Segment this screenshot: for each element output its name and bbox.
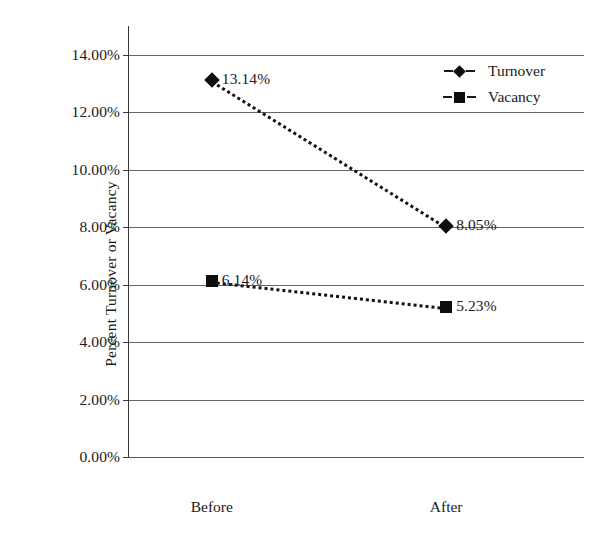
y-axis-tick-label: 2.00% [79, 391, 120, 409]
data-label-turnover-before: 13.14% [222, 70, 270, 88]
gridline [129, 55, 584, 56]
gridline [129, 227, 584, 228]
legend-dash-left-icon [444, 70, 453, 72]
square-marker-vacancy-before[interactable] [206, 275, 218, 287]
legend-dash-right-icon [466, 70, 475, 72]
y-axis-tick-label: 14.00% [72, 46, 120, 64]
legend-key-vacancy [436, 92, 482, 103]
x-axis-tick-label-before: Before [191, 498, 233, 516]
y-axis-tick-label: 4.00% [79, 333, 120, 351]
legend-label-turnover: Turnover [488, 62, 545, 80]
y-axis-tick-label: 10.00% [72, 161, 120, 179]
y-axis-tick-mark [123, 342, 129, 343]
y-axis-tick-mark [123, 285, 129, 286]
y-axis-tick-mark [123, 112, 129, 113]
square-marker-vacancy-after[interactable] [440, 301, 452, 313]
gridline [129, 342, 584, 343]
square-marker-icon [454, 92, 465, 103]
legend: Turnover Vacancy [436, 62, 545, 106]
diamond-marker-turnover-after[interactable] [438, 218, 454, 234]
gridline [129, 400, 584, 401]
y-axis-tick-mark [123, 55, 129, 56]
y-axis-tick-mark [123, 170, 129, 171]
y-axis-tick-mark [123, 227, 129, 228]
data-label-vacancy-before: 6.14% [222, 271, 263, 289]
y-axis-tick-mark [123, 400, 129, 401]
y-axis-tick-label: 8.00% [79, 218, 120, 236]
diamond-marker-icon [453, 65, 466, 78]
gridline [129, 457, 584, 458]
x-axis-tick-label-after: After [430, 498, 463, 516]
legend-dash-left-icon [443, 96, 452, 98]
y-axis-tick-label: 6.00% [79, 276, 120, 294]
legend-dash-right-icon [467, 96, 476, 98]
legend-item-vacancy[interactable]: Vacancy [436, 88, 545, 106]
data-label-turnover-after: 8.05% [456, 216, 497, 234]
gridline [129, 285, 584, 286]
gridline [129, 112, 584, 113]
legend-key-turnover [436, 67, 482, 76]
data-label-vacancy-after: 5.23% [456, 297, 497, 315]
plot-area: 0.00%2.00%4.00%6.00%8.00%10.00%12.00%14.… [129, 55, 584, 457]
y-axis-tick-label: 0.00% [79, 448, 120, 466]
y-axis-tick-label: 12.00% [72, 103, 120, 121]
line-chart: Percent Turnover or Vacancy 0.00%2.00%4.… [0, 0, 612, 548]
y-axis-tick-mark [123, 457, 129, 458]
series-line-turnover [210, 80, 446, 229]
legend-label-vacancy: Vacancy [488, 88, 541, 106]
legend-item-turnover[interactable]: Turnover [436, 62, 545, 80]
